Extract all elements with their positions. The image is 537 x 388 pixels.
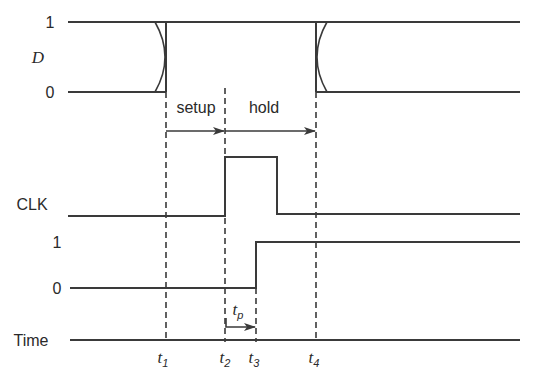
t2-label: t2: [220, 348, 231, 369]
time-label: Time: [14, 332, 49, 349]
q-waveform: [70, 242, 520, 288]
q-low-label: 0: [53, 280, 62, 297]
timing-diagram: 1 D 0 setup hold CLK 1 0 tp: [0, 0, 537, 388]
t4-label: t4: [309, 348, 320, 369]
q-signal: 1 0: [53, 234, 520, 297]
clk-label: CLK: [16, 196, 47, 213]
time-axis: Time t1 t2 t3 t4: [14, 332, 520, 369]
d-signal: 1 D 0: [31, 14, 520, 101]
d-uncertainty-arc-t1: [155, 22, 165, 92]
d-signal-label: D: [31, 48, 45, 67]
q-high-label: 1: [53, 234, 62, 251]
setup-label: setup: [176, 99, 215, 116]
tp-label: tp: [233, 300, 244, 321]
clk-signal: CLK: [16, 157, 520, 216]
d-low-label: 0: [46, 84, 55, 101]
propagation-delay: tp: [226, 300, 255, 327]
clk-waveform: [68, 157, 520, 216]
t1-label: t1: [158, 348, 169, 369]
d-high-label: 1: [46, 14, 55, 31]
setup-hold-intervals: setup hold: [166, 99, 315, 131]
hold-label: hold: [249, 99, 279, 116]
t3-label: t3: [249, 348, 261, 369]
d-uncertainty-arc-t4: [317, 22, 327, 92]
